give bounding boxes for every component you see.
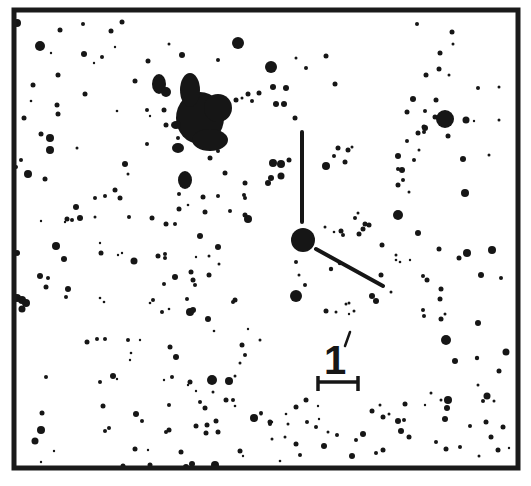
star — [40, 411, 45, 416]
star — [336, 146, 341, 151]
star — [450, 30, 455, 35]
star — [395, 418, 401, 424]
star — [499, 276, 503, 280]
star — [361, 227, 366, 232]
star — [121, 252, 123, 254]
star — [164, 430, 168, 434]
nebula-region — [192, 129, 228, 151]
star — [130, 352, 133, 355]
star — [395, 259, 398, 262]
star — [460, 156, 466, 162]
star — [335, 433, 339, 437]
star — [273, 101, 279, 107]
star — [116, 110, 119, 113]
star — [228, 209, 232, 213]
star — [212, 391, 215, 394]
star — [268, 422, 272, 426]
star — [423, 109, 427, 113]
star — [205, 316, 211, 322]
nebula-region — [171, 121, 181, 129]
star — [265, 61, 277, 73]
star — [268, 175, 274, 181]
star — [442, 416, 448, 422]
star — [501, 425, 506, 430]
star — [170, 375, 174, 379]
star — [335, 311, 338, 314]
star — [24, 170, 32, 178]
star — [40, 220, 42, 222]
target-star — [291, 228, 315, 252]
star — [498, 119, 501, 122]
star — [65, 286, 71, 292]
star — [379, 404, 382, 407]
star — [39, 132, 44, 137]
star — [444, 313, 447, 316]
star — [150, 216, 155, 221]
star — [287, 423, 290, 426]
star — [437, 67, 442, 72]
star — [287, 158, 292, 163]
star — [94, 216, 97, 219]
star — [321, 443, 327, 449]
star — [349, 453, 355, 459]
star — [452, 43, 455, 46]
star — [353, 310, 356, 313]
star — [444, 447, 449, 452]
star — [107, 426, 111, 430]
star — [99, 251, 104, 256]
star — [93, 62, 95, 64]
star — [46, 276, 50, 280]
star — [55, 103, 60, 108]
star — [145, 142, 149, 146]
star — [65, 217, 70, 222]
star — [197, 233, 203, 239]
star — [231, 398, 235, 402]
star — [243, 353, 247, 357]
star — [281, 101, 287, 107]
star — [434, 440, 438, 444]
star — [58, 28, 63, 33]
star — [294, 260, 298, 264]
star — [332, 154, 336, 158]
star — [172, 274, 178, 280]
star — [179, 450, 184, 455]
star — [173, 222, 177, 226]
star — [61, 256, 67, 262]
star — [163, 256, 167, 260]
star — [162, 108, 167, 113]
star — [265, 180, 271, 186]
star — [405, 139, 409, 143]
star — [373, 298, 379, 304]
star — [290, 290, 302, 302]
star — [156, 254, 161, 259]
star — [484, 393, 491, 400]
star — [444, 396, 452, 404]
star — [295, 57, 298, 60]
star — [390, 291, 393, 294]
star — [357, 212, 360, 215]
star — [508, 447, 510, 449]
star — [216, 194, 220, 198]
star — [430, 392, 433, 395]
star — [127, 215, 131, 219]
star — [324, 226, 327, 229]
star — [218, 263, 221, 266]
star — [40, 461, 42, 463]
star — [163, 252, 167, 256]
star — [327, 431, 330, 434]
star — [146, 59, 151, 64]
star — [488, 154, 491, 157]
scale-bar: 1 — [318, 332, 358, 391]
star — [103, 429, 107, 433]
star — [164, 222, 169, 227]
star — [179, 52, 185, 58]
star — [103, 301, 106, 304]
star — [346, 148, 351, 153]
star — [277, 160, 285, 168]
star — [461, 189, 469, 197]
star — [73, 204, 79, 210]
star — [100, 55, 104, 59]
star — [407, 435, 412, 440]
star — [478, 272, 484, 278]
star — [241, 97, 244, 100]
